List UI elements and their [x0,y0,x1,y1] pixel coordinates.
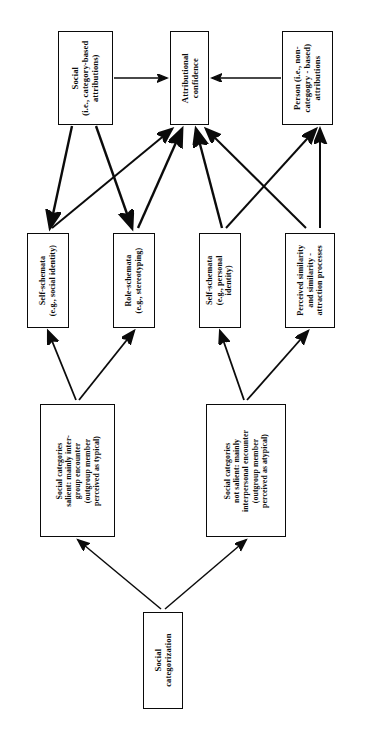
node-social-attributions-label: Social(i.e., category-basedattributions) [70,40,100,115]
node-person-attributions[interactable]: Person (i.e., non-categogry - based)attr… [282,31,333,125]
node-self-schemata-social[interactable]: Self-schemata(e.g., social identity) [27,233,69,328]
node-perceived-similarity[interactable]: Perceived similarityand similarity -attr… [285,233,335,328]
node-role-schemata[interactable]: Role-schemata(e.g., stereotyping) [113,233,155,328]
edge-categories-salient-to-self-schemata-social [48,331,76,400]
node-perceived-similarity-label: Perceived similarityand similarity -attr… [296,245,325,316]
node-self-schemata-personal[interactable]: Self-schemata(e.g., personalidentity) [199,233,241,328]
edge-self-schemata-social-to-attributional [52,129,172,228]
edge-social-to-self-schemata-social [50,126,72,228]
edge-categories-salient-to-role-schemata [79,331,134,400]
node-attributional-confidence[interactable]: Attributionalconfidence [170,31,209,125]
diagram-canvas: Social(i.e., category-basedattributions)… [0,0,376,734]
edge-self-schemata-personal-to-person [226,129,316,228]
node-self-schemata-social-label: Self-schemata(e.g., social identity) [38,245,57,316]
edge-categories-not-salient-to-self-schemata-personal [220,331,244,400]
edge-categories-not-salient-to-perceived-similarity [247,331,308,400]
node-categories-not-salient-label: Social categoriesnot salient: mainlyinte… [223,429,269,511]
edge-self-schemata-personal-to-attributional [196,129,222,228]
edge-social-categorization-to-categories-salient [78,540,161,609]
node-social-attributions[interactable]: Social(i.e., category-basedattributions) [58,31,113,125]
node-person-attributions-label: Person (i.e., non-categogry - based)attr… [292,44,322,113]
node-social-categorization[interactable]: Socialcategorization [143,612,183,709]
node-categories-not-salient[interactable]: Social categoriesnot salient: mainlyinte… [206,404,286,537]
node-self-schemata-personal-label: Self-schemata(e.g., personalidentity) [206,256,235,306]
node-social-categorization-label: Socialcategorization [153,634,173,687]
edge-social-categorization-to-categories-not-salient [165,540,246,609]
edge-perceived-similarity-to-attributional [206,129,306,228]
edge-role-schemata-to-attributional [138,129,182,228]
node-categories-salient[interactable]: Social categoriessalient: mainly inter-g… [40,404,115,537]
node-role-schemata-label: Role-schemata(e.g., stereotyping) [124,248,143,314]
node-attributional-confidence-label: Attributionalconfidence [179,53,199,103]
node-categories-salient-label: Social categoriessalient: mainly inter-g… [55,435,101,507]
